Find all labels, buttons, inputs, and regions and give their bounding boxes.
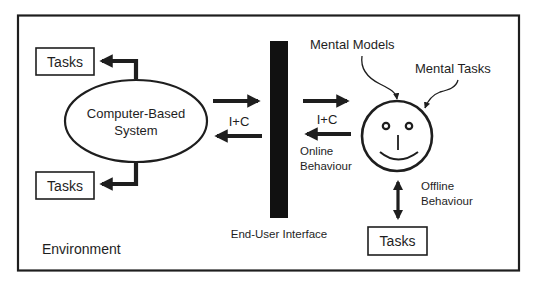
- elbow-arrow-icon: [102, 163, 136, 184]
- right-eye: [406, 123, 412, 129]
- tasks-label: Tasks: [380, 233, 416, 249]
- user-smiley-face-icon: [362, 101, 432, 171]
- smile: [380, 152, 418, 160]
- flow-label: I+C: [317, 112, 338, 127]
- computer-based-system: Computer-Based System: [65, 80, 207, 162]
- system-tasks-top: Tasks: [36, 48, 94, 75]
- online-behaviour-line2: Behaviour: [300, 160, 352, 172]
- curved-arrow-icon: [425, 80, 458, 108]
- mental-models-label: Mental Models: [310, 37, 395, 52]
- flow-system-interface: I+C: [213, 101, 262, 136]
- system-ellipse: [65, 80, 207, 162]
- flow-interface-user: I+C: [303, 101, 351, 134]
- face-outline: [362, 101, 432, 171]
- system-label-line2: System: [114, 123, 157, 138]
- hci-model-diagram: Environment Tasks Computer-Based System …: [0, 0, 537, 285]
- user-tasks: Tasks: [368, 227, 427, 255]
- curved-arrow-icon: [362, 56, 397, 99]
- mental-tasks-label: Mental Tasks: [415, 61, 491, 76]
- left-eye: [383, 123, 389, 129]
- offline-behaviour-line1: Offline: [421, 180, 454, 192]
- system-label-line1: Computer-Based: [87, 106, 185, 121]
- interface-bar: [270, 41, 288, 218]
- elbow-arrow-icon: [102, 61, 136, 79]
- tasks-label: Tasks: [47, 178, 83, 194]
- online-behaviour-line1: Online: [300, 145, 333, 157]
- interface-label: End-User Interface: [231, 228, 328, 240]
- system-tasks-bottom: Tasks: [36, 172, 94, 199]
- offline-behaviour-line2: Behaviour: [421, 195, 473, 207]
- environment-label: Environment: [42, 241, 121, 257]
- flow-label: I+C: [229, 114, 250, 129]
- tasks-label: Tasks: [47, 54, 83, 70]
- end-user-interface: End-User Interface: [231, 41, 328, 240]
